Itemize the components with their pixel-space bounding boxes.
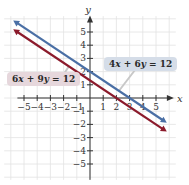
x-axis-arrow-icon [167,95,174,101]
x-tick-label: 1 [100,102,106,112]
x-tick-label: 2 [114,102,120,112]
equation-label-blue: 4x + 6y = 12 [104,57,177,71]
y-tick-label: −4 [73,146,87,156]
x-tick-label: −3 [44,102,58,112]
label-pointer-blue [119,70,135,91]
x-tick-label: −4 [31,102,45,112]
coordinate-plane: −5−4−3−2−11234554321−1−2−3−4−5xy [0,0,189,185]
y-tick-label: 4 [80,40,86,50]
y-tick-label: −5 [73,159,87,169]
y-tick-label: 3 [80,53,86,63]
x-tick-label: −2 [57,102,70,112]
x-axis-label: x [177,93,183,104]
x-tick-label: 5 [153,102,159,112]
equation-label-red: 6x + 9y = 12 [7,72,80,86]
y-tick-label: −2 [73,119,86,129]
y-tick-label: 5 [80,27,86,37]
y-tick-label: 1 [80,80,86,90]
y-tick-label: −1 [73,106,86,116]
y-tick-label: −3 [73,133,87,143]
x-tick-label: −5 [17,102,31,112]
y-axis-label: y [84,4,91,15]
